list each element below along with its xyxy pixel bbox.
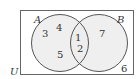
element-a-only: 5 xyxy=(57,49,63,60)
element-b-only: 7 xyxy=(99,28,105,39)
universe-label: U xyxy=(10,66,19,77)
element-a-only: 3 xyxy=(42,28,48,39)
set-a-label: A xyxy=(33,14,41,25)
venn-diagram: A B U 3 4 5 1 2 7 6 xyxy=(0,0,139,79)
set-b-label: B xyxy=(116,14,124,25)
element-outside: 6 xyxy=(121,63,127,74)
element-intersection: 1 xyxy=(75,32,81,43)
element-a-only: 4 xyxy=(56,22,62,33)
element-intersection: 2 xyxy=(77,43,83,54)
